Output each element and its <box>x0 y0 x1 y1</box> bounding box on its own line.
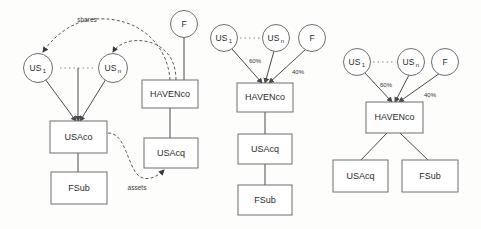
label-usn-middle: US <box>268 33 280 43</box>
label-usaco-left: USAco <box>64 132 92 142</box>
label-f-middle: F <box>309 33 314 43</box>
edge-usn-to-havenco-middle <box>265 51 274 83</box>
label-us1-right: US <box>349 57 361 67</box>
edge-usn-to-havenco-right <box>395 75 409 102</box>
annotation-assets: assets <box>128 184 148 191</box>
edge-usn-to-usaco <box>80 79 106 121</box>
label-pct-us-right: 60% <box>380 82 393 88</box>
label-f-left: F <box>181 19 186 29</box>
diagram-canvas: US 1 US n F USAco FSub HAVENco USAcq sha… <box>0 0 481 229</box>
label-usn-right: US <box>403 57 415 67</box>
structure-diagram-svg: US 1 US n F USAco FSub HAVENco USAcq sha… <box>0 0 481 229</box>
edge-havenco-to-fsub-right <box>400 133 428 160</box>
label-usn-left: US <box>105 63 117 73</box>
annotation-shares: shares <box>77 16 97 23</box>
label-fsub-left: FSub <box>68 183 90 193</box>
label-usacq-right: USAcq <box>346 171 374 181</box>
panel-right: US 1 US n F HAVENco USAcq FSub 60% 40% <box>333 49 459 193</box>
label-f-right: F <box>442 57 447 67</box>
label-usacq-middle: USAcq <box>251 144 279 154</box>
label-havenco-middle: HAVENco <box>245 92 285 102</box>
label-usn-right-subscript: n <box>416 62 419 68</box>
label-fsub-right: FSub <box>419 171 441 181</box>
panel-middle: US 1 US n F HAVENco USAcq FSub 60% 40% <box>211 25 326 216</box>
edge-us1-to-usaco <box>45 79 76 121</box>
label-usacq-left: USAcq <box>157 148 185 158</box>
label-usn-left-subscript: n <box>118 68 121 74</box>
label-pct-us-middle: 60% <box>249 58 262 64</box>
label-fsub-middle: FSub <box>254 195 276 205</box>
label-us1-left: US <box>30 63 42 73</box>
edge-havenco-to-usacq-right <box>361 133 387 160</box>
panel-left: US 1 US n F USAco FSub HAVENco USAcq sha… <box>24 11 199 205</box>
label-us1-middle: US <box>216 33 228 43</box>
label-havenco-left: HAVENco <box>150 89 190 99</box>
label-havenco-right: HAVENco <box>375 112 415 122</box>
label-pct-f-right: 40% <box>424 92 437 98</box>
edge-f-to-havenco-middle <box>269 49 306 83</box>
label-pct-f-middle: 40% <box>292 69 305 75</box>
edge-us1-to-havenco-middle <box>232 49 262 83</box>
label-usn-middle-subscript: n <box>281 38 284 44</box>
